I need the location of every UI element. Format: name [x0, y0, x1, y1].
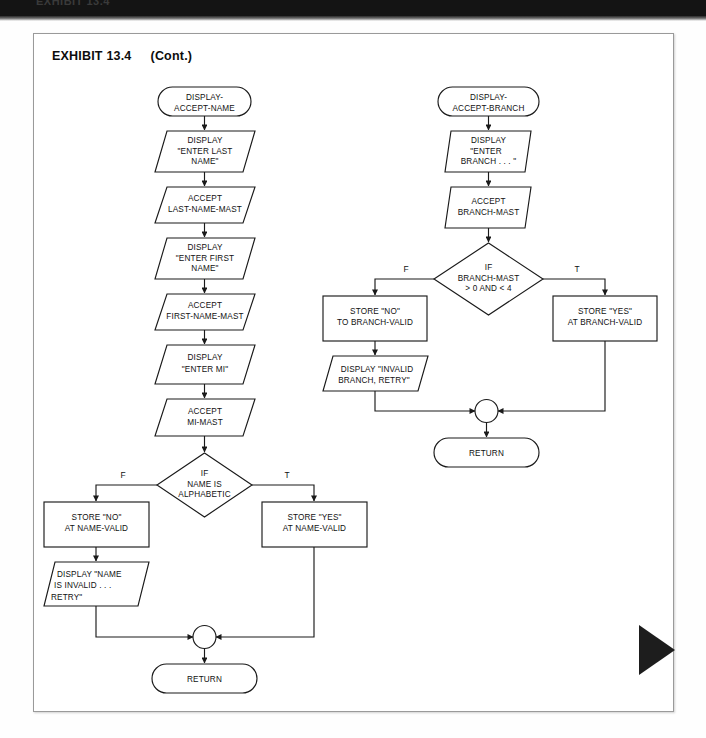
merge-path-false [96, 606, 193, 637]
scanned-page: EXHIBIT 13.4 EXHIBIT 13.4(Cont.) DISPLAY… [0, 0, 706, 738]
branch-label-true: T [284, 470, 289, 480]
node-return-terminal: RETURN [434, 438, 539, 467]
node-text-line: NAME" [191, 157, 218, 166]
branch-label-false: F [403, 264, 408, 274]
node-text-line: DISPLAY- [470, 93, 507, 102]
page-header-shadow [0, 16, 706, 21]
node-text-line: LAST-NAME-MAST [168, 205, 242, 214]
node-text-line: DISPLAY "NAME [57, 570, 122, 579]
node-text-line: "ENTER MI" [182, 365, 228, 374]
branch-true-path [543, 279, 605, 295]
node-text-line: "ENTER [470, 147, 502, 156]
node-display-enter-mi: DISPLAY "ENTER MI" [155, 345, 255, 384]
node-text-line: RETRY" [51, 593, 82, 602]
flow-display-accept-name: DISPLAY- ACCEPT-NAME DISPLAY "ENTER LAST… [44, 87, 367, 693]
node-text-line: ACCEPT-NAME [174, 104, 235, 113]
node-text-line: BRANCH, RETRY" [338, 376, 410, 385]
node-store-yes-at-name-valid: STORE "YES" AT NAME-VALID [262, 502, 367, 547]
node-text-line: AT BRANCH-VALID [568, 318, 643, 327]
page-header-strip: EXHIBIT 13.4 [0, 0, 706, 16]
merge-path-true [498, 341, 605, 411]
node-display-invalid-branch-retry: DISPLAY "INVALID BRANCH, RETRY" [323, 356, 428, 391]
node-text-line: RETURN [187, 675, 222, 684]
node-text-line: ACCEPT [188, 407, 222, 416]
flow-display-accept-branch: DISPLAY- ACCEPT-BRANCH DISPLAY "ENTER BR… [323, 87, 657, 467]
node-accept-first-name-mast: ACCEPT FIRST-NAME-MAST [155, 294, 255, 330]
node-text-line: FIRST-NAME-MAST [166, 312, 243, 321]
node-connector-circle [193, 626, 216, 649]
node-connector-circle [475, 400, 498, 423]
node-text-line: DISPLAY "INVALID [341, 365, 414, 374]
node-accept-mi-mast: ACCEPT MI-MAST [155, 399, 255, 436]
node-text-line: IF [201, 469, 209, 478]
node-store-yes-at-branch-valid: STORE "YES" AT BRANCH-VALID [553, 296, 657, 341]
node-display-name-is-invalid-retry: DISPLAY "NAME IS INVALID . . . RETRY" [44, 562, 149, 606]
node-text-line: STORE "NO" [72, 513, 122, 522]
node-text-line: STORE "YES" [287, 513, 341, 522]
node-text-line: BRANCH-MAST [458, 274, 520, 283]
node-text-line: AT NAME-VALID [65, 524, 128, 533]
node-text-line: > 0 AND < 4 [465, 284, 512, 293]
node-text-line: ALPHABETIC [178, 490, 230, 499]
node-text-line: "ENTER LAST [177, 147, 232, 156]
node-text-line: ACCEPT-BRANCH [452, 104, 524, 113]
merge-path-false [375, 391, 475, 411]
node-text-line: ACCEPT [471, 197, 505, 206]
node-text-line: DISPLAY- [186, 93, 223, 102]
node-return-terminal: RETURN [152, 664, 257, 693]
node-text-line: RETURN [469, 449, 504, 458]
node-text-line: DISPLAY [187, 243, 222, 252]
node-text-line: ACCEPT [188, 301, 222, 310]
node-store-no-at-name-valid: STORE "NO" AT NAME-VALID [44, 502, 149, 547]
node-text-line: BRANCH . . . " [461, 157, 517, 166]
node-accept-last-name-mast: ACCEPT LAST-NAME-MAST [155, 187, 255, 223]
exhibit-frame: EXHIBIT 13.4(Cont.) DISPLAY- ACCEPT-NAME [33, 33, 674, 712]
merge-path-true [216, 547, 314, 637]
node-display-enter-last-name: DISPLAY "ENTER LAST NAME" [155, 131, 255, 172]
branch-false-path [96, 485, 157, 501]
branch-label-true: T [574, 264, 579, 274]
branch-true-path [252, 485, 314, 501]
node-display-accept-name-terminal: DISPLAY- ACCEPT-NAME [158, 87, 251, 116]
node-store-no-to-branch-valid: STORE "NO" TO BRANCH-VALID [323, 296, 427, 341]
node-text-line: STORE "YES" [578, 307, 632, 316]
node-text-line: DISPLAY [471, 136, 506, 145]
node-decision-name-is-alphabetic: IF NAME IS ALPHABETIC [157, 453, 252, 517]
branch-false-path [375, 279, 434, 295]
node-text-line: AT NAME-VALID [283, 524, 346, 533]
node-text-line: NAME IS [187, 480, 222, 489]
node-display-accept-branch-terminal: DISPLAY- ACCEPT-BRANCH [438, 87, 539, 116]
node-text-line: BRANCH-MAST [458, 208, 520, 217]
node-display-enter-branch: DISPLAY "ENTER BRANCH . . . " [445, 131, 531, 172]
node-display-enter-first-name: DISPLAY "ENTER FIRST NAME" [155, 238, 255, 279]
node-text-line: TO BRANCH-VALID [337, 318, 413, 327]
node-text-line: "ENTER FIRST [176, 254, 234, 263]
node-accept-branch-mast: ACCEPT BRANCH-MAST [445, 187, 531, 228]
branch-label-false: F [120, 470, 125, 480]
node-text-line: DISPLAY [187, 136, 222, 145]
node-text-line: IF [485, 263, 493, 272]
node-text-line: MI-MAST [187, 418, 223, 427]
flowchart-diagram: DISPLAY- ACCEPT-NAME DISPLAY "ENTER LAST… [34, 34, 673, 711]
node-text-line: STORE "NO" [350, 307, 400, 316]
node-decision-branch-mast-range: IF BRANCH-MAST > 0 AND < 4 [434, 243, 543, 315]
page-turn-marker-icon [639, 625, 675, 675]
node-text-line: ACCEPT [188, 194, 222, 203]
node-text-line: IS INVALID . . . [54, 581, 111, 590]
node-text-line: NAME" [191, 264, 218, 273]
page-header-strip-text: EXHIBIT 13.4 [36, 0, 110, 7]
node-text-line: DISPLAY [187, 353, 222, 362]
